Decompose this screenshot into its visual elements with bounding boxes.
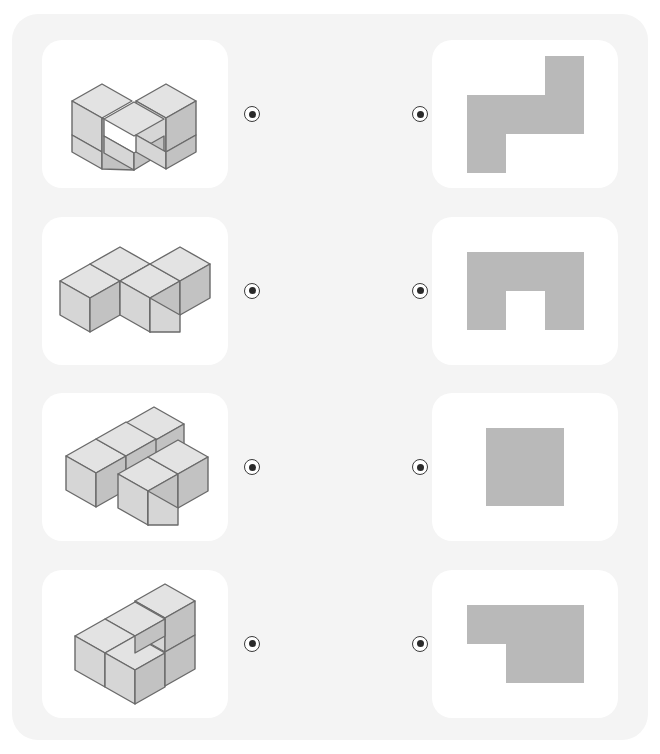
isometric-figure-card[interactable] — [42, 570, 228, 718]
isometric-figure-card[interactable] — [42, 393, 228, 541]
match-row — [12, 40, 648, 188]
silhouette-card[interactable] — [432, 217, 618, 365]
top-view-silhouette-4 — [467, 605, 584, 683]
match-row — [12, 217, 648, 365]
isometric-figure-card[interactable] — [42, 217, 228, 365]
radio-dot-icon-right[interactable] — [412, 283, 428, 299]
isometric-figure-card[interactable] — [42, 40, 228, 188]
isometric-cube-figure-4 — [73, 581, 197, 707]
top-view-silhouette-2 — [467, 252, 584, 330]
radio-dot-icon-right[interactable] — [412, 106, 428, 122]
radio-dot-icon-right[interactable] — [412, 459, 428, 475]
top-view-silhouette-1 — [467, 56, 584, 173]
silhouette-card[interactable] — [432, 393, 618, 541]
isometric-cube-figure-3 — [62, 402, 208, 532]
radio-dot-icon-left[interactable] — [244, 106, 260, 122]
isometric-cube-figure-1 — [60, 53, 210, 175]
shape-matching-page — [0, 0, 660, 754]
match-rows-container — [12, 14, 648, 740]
top-view-silhouette-3 — [486, 428, 564, 506]
match-row — [12, 570, 648, 718]
match-row — [12, 393, 648, 541]
radio-dot-icon-left[interactable] — [244, 636, 260, 652]
isometric-cube-figure-2 — [56, 235, 214, 347]
silhouette-card[interactable] — [432, 570, 618, 718]
radio-dot-icon-left[interactable] — [244, 459, 260, 475]
radio-dot-icon-right[interactable] — [412, 636, 428, 652]
silhouette-card[interactable] — [432, 40, 618, 188]
radio-dot-icon-left[interactable] — [244, 283, 260, 299]
